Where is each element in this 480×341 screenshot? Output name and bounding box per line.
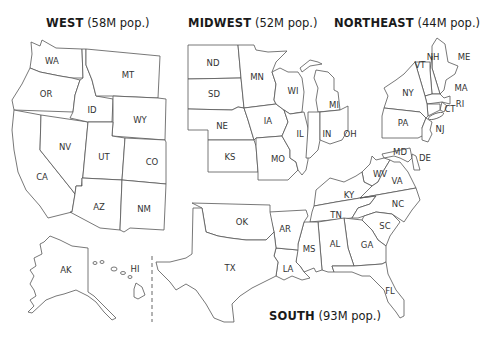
label-il: IL [296, 129, 304, 139]
label-ok: OK [236, 217, 249, 227]
label-md: MD [393, 147, 407, 157]
label-hi: HI [131, 264, 140, 274]
region-northeast [382, 38, 458, 142]
label-id: ID [87, 105, 97, 115]
state-co[interactable] [122, 138, 166, 184]
label-ak: AK [60, 265, 72, 275]
label-mo: MO [271, 154, 285, 164]
label-az: AZ [93, 202, 105, 212]
label-ks: KS [225, 152, 236, 162]
label-ca: CA [36, 172, 48, 182]
label-pa: PA [398, 118, 409, 128]
label-ar: AR [279, 224, 291, 234]
label-sc: SC [379, 221, 390, 231]
label-ny: NY [402, 88, 414, 98]
label-mt: MT [122, 70, 135, 80]
label-mi: MI [329, 100, 339, 110]
label-wy: WY [133, 115, 147, 125]
label-ky: KY [344, 190, 355, 200]
label-nm: NM [137, 204, 151, 214]
label-al: AL [330, 239, 341, 249]
state-ak[interactable] [28, 236, 116, 320]
label-me: ME [458, 52, 471, 62]
label-ri: RI [456, 99, 464, 109]
label-de: DE [419, 153, 431, 163]
label-la: LA [283, 264, 294, 274]
label-in: IN [323, 129, 332, 139]
label-sd: SD [208, 89, 220, 99]
label-nj: NJ [436, 124, 445, 134]
label-wi: WI [288, 86, 299, 96]
state-in[interactable] [306, 112, 320, 158]
label-tn: TN [329, 210, 342, 220]
label-va: VA [391, 176, 402, 186]
label-wv: WV [373, 169, 387, 179]
label-ga: GA [361, 240, 374, 250]
label-oh: OH [343, 129, 356, 139]
label-mn: MN [250, 72, 264, 82]
region-west [12, 40, 166, 320]
label-ma: MA [454, 83, 467, 93]
label-nv: NV [59, 142, 71, 152]
label-fl: FL [385, 286, 395, 296]
label-ut: UT [98, 152, 110, 162]
label-nh: NH [427, 52, 440, 62]
label-tx: TX [223, 263, 235, 273]
label-vt: VT [414, 60, 426, 70]
label-ia: IA [264, 116, 273, 126]
label-nd: ND [207, 58, 220, 68]
label-or: OR [40, 89, 53, 99]
label-ne: NE [216, 121, 228, 131]
label-nc: NC [392, 199, 404, 209]
label-ms: MS [303, 244, 316, 254]
label-co: CO [146, 157, 159, 167]
label-wa: WA [45, 56, 59, 66]
label-ct: CT [444, 104, 456, 114]
state-ma[interactable] [425, 94, 450, 104]
